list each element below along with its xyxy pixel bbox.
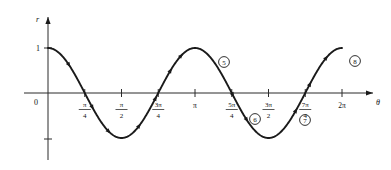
curve-direction-arrow-5 — [153, 96, 157, 102]
y-tick-label-one: 1 — [36, 44, 40, 53]
y-axis-label: r — [36, 15, 40, 24]
x-tick-label-2pi: 2π — [338, 101, 346, 110]
region-8-label: 8 — [353, 58, 357, 66]
x-tick-label-pi: π — [193, 101, 197, 110]
x-tick-numerator-3pi-over-2: 3π — [265, 101, 273, 109]
x-tick-denominator-3pi-over-4: 4 — [157, 112, 161, 120]
x-axis-arrowhead — [366, 90, 373, 95]
x-axis-label: θ — [376, 98, 380, 107]
region-6-label: 6 — [253, 116, 257, 124]
origin-label: 0 — [34, 98, 38, 107]
x-tick-denominator-5pi-over-4: 4 — [230, 112, 234, 120]
region-5-label: 5 — [222, 59, 226, 67]
x-tick-numerator-pi-over-2: π — [120, 101, 124, 109]
axes-group — [24, 17, 373, 160]
curve-direction-arrow-2 — [89, 104, 93, 110]
x-tick-numerator-pi-over-4: π — [83, 101, 87, 109]
x-tick-numerator-7pi-over-4: 7π — [302, 101, 310, 109]
curve-direction-arrow-11 — [307, 82, 311, 88]
region-label-group: 5678 — [219, 56, 361, 126]
x-tick-denominator-pi-over-2: 2 — [120, 112, 124, 120]
x-tick-numerator-3pi-over-4: 3π — [155, 101, 163, 109]
x-tick-denominator-3pi-over-2: 2 — [267, 112, 271, 120]
polar-curve-figure: π4π23π4π5π43π27π42π 5678 r θ 0 1 — [0, 0, 391, 170]
x-tick-numerator-5pi-over-4: 5π — [228, 101, 236, 109]
y-axis-arrowhead — [45, 17, 50, 24]
region-7-label: 7 — [303, 117, 307, 125]
x-tick-denominator-pi-over-4: 4 — [83, 112, 87, 120]
